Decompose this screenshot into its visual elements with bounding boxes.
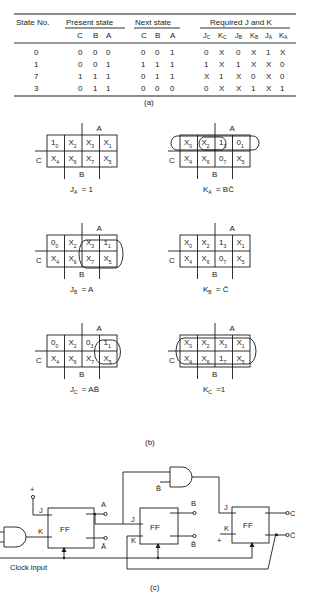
table-row: 3 0 1 1 0 0 0 0 X X 1 X 1 — [34, 84, 285, 93]
caption-b: (b) — [145, 438, 155, 447]
kmap-cell: 00 — [51, 238, 58, 249]
cell-ka: 0 — [280, 60, 285, 69]
kmap-cell: X4 — [184, 154, 192, 165]
kmap-cell: X5 — [104, 254, 112, 265]
kmap-cell: X2 — [69, 338, 77, 349]
kmap-cell: X2 — [69, 138, 77, 149]
axis-label-b: B — [79, 270, 84, 279]
cell-kc: X — [219, 84, 225, 93]
kmap-cell: X7 — [86, 354, 94, 365]
axis-label-a: A — [97, 224, 103, 233]
cell-jb: X — [236, 84, 242, 93]
header-next-state: Next state — [135, 18, 172, 27]
k-label-a: K — [38, 527, 43, 536]
kmap-ja: ABC10X2X3X1X4X6X7X5JA = 1 — [35, 123, 117, 195]
cell-next-a: 0 — [170, 84, 175, 93]
kmap-cell: X1 — [237, 238, 245, 249]
kmap-cell: X4 — [51, 154, 59, 165]
cell-kb: 0 — [251, 72, 256, 81]
axis-label-a: A — [230, 124, 236, 133]
kmap-cell: X5 — [237, 154, 245, 165]
kmap-kc: ABCX0X2X3X1X4X617X5KC =1 — [168, 323, 250, 395]
kmap-cell: X5 — [104, 154, 112, 165]
cell-ka: 0 — [280, 72, 285, 81]
cell-state: 0 — [34, 48, 39, 57]
kmap-cell: 01 — [237, 138, 244, 149]
svg-text:JB: JB — [235, 31, 243, 40]
wire-a-to-jb — [95, 514, 143, 524]
cell-present-a: 1 — [106, 72, 111, 81]
caption-c: (c) — [150, 583, 160, 592]
kmap-jb: ABC00X2X311X4X6X7X5JB = A — [35, 223, 117, 295]
cell-present-a: 1 — [106, 84, 111, 93]
kmap-cell: X6 — [69, 154, 77, 165]
svg-text:JA: JA — [265, 31, 273, 40]
kmap-cell: X5 — [237, 254, 245, 265]
cell-kb: 1 — [251, 84, 256, 93]
k-label-b: K — [131, 536, 136, 545]
axis-label-b: B — [212, 170, 217, 179]
wire-and-to-jc — [192, 477, 236, 513]
cell-state: 7 — [34, 72, 39, 81]
j-label-b: J — [131, 515, 135, 524]
kmap-cell: 00 — [51, 338, 58, 349]
and-gate-k-a — [4, 527, 26, 547]
plus-terminal-a — [31, 495, 34, 498]
j-label-a: J — [39, 506, 43, 515]
cell-ja: X — [266, 60, 272, 69]
kmap-equation: KB = C̄ — [203, 285, 229, 295]
kmap-cell: X4 — [184, 254, 192, 265]
k-label-c: K — [224, 524, 229, 533]
cell-next-b: 1 — [155, 60, 160, 69]
jk-h1-sub: C — [223, 34, 227, 40]
kmap-equation: JB = A — [70, 285, 94, 295]
sub-header-present-c: C — [77, 31, 83, 40]
kmap-cell: X4 — [51, 254, 59, 265]
axis-label-c: C — [169, 256, 175, 265]
ff-b-label: FF — [150, 523, 160, 532]
axis-label-b: B — [212, 270, 217, 279]
kmap-cell: 17 — [219, 354, 226, 365]
karnaugh-maps: ABC10X2X3X1X4X6X7X5JA = 1ABCX0X21301X4X6… — [35, 123, 259, 395]
kmap-jc: ABC00X20311X4X6X7X5JC = AB̄ — [35, 323, 117, 395]
output-c: C — [290, 509, 296, 518]
axis-label-a: A — [230, 224, 236, 233]
header-state-no: State No. — [16, 18, 49, 27]
cell-kb: X — [251, 48, 257, 57]
ff-a-label: FF — [60, 525, 70, 534]
cell-present-c: 0 — [78, 48, 83, 57]
kmap-cell: 03 — [86, 338, 93, 349]
cell-present-c: 0 — [78, 84, 83, 93]
cell-next-c: 0 — [141, 84, 146, 93]
clock-input-label: Clock input — [10, 563, 48, 572]
cell-present-b: 0 — [93, 48, 98, 57]
jk-sub-headers: JC KC JB KB JA KA — [203, 31, 288, 40]
kmap-cell: X3 — [219, 338, 227, 349]
and-input-b-bar: B̄ — [156, 484, 161, 493]
cell-kc: X — [219, 48, 225, 57]
cell-present-b: 1 — [93, 72, 98, 81]
svg-text:JC: JC — [203, 31, 211, 40]
axis-label-c: C — [169, 156, 175, 165]
sub-header-next-b: B — [155, 31, 160, 40]
cell-next-b: 0 — [155, 84, 160, 93]
kmap-cell: 13 — [219, 238, 226, 249]
kmap-cell: X2 — [202, 138, 210, 149]
svg-text:KA: KA — [279, 31, 288, 40]
cell-jc: 1 — [204, 60, 209, 69]
state-table: State No. Present state Next state Requi… — [14, 14, 296, 107]
jk-h4-sub: A — [269, 34, 273, 40]
output-b: B — [191, 499, 196, 508]
axis-label-a: A — [230, 324, 236, 333]
kmap-cell: 10 — [51, 138, 58, 149]
cell-kc: X — [219, 60, 225, 69]
jk-h0-sub: C — [207, 34, 211, 40]
cell-present-a: 0 — [106, 48, 111, 57]
cell-present-c: 0 — [78, 60, 83, 69]
cell-jb: 0 — [236, 48, 241, 57]
kmap-cell: X6 — [202, 354, 210, 365]
kmap-cell: X1 — [237, 338, 245, 349]
sub-header-next-a: A — [170, 31, 176, 40]
kmap-cell: 07 — [219, 154, 226, 165]
jk-h3-sub: B — [255, 34, 259, 40]
